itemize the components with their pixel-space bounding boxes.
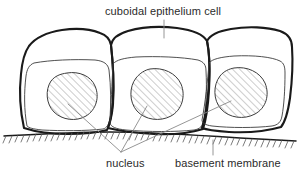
basement-membrane [3,132,296,148]
label-nucleus: nucleus [106,157,145,169]
epithelium-diagram [0,0,299,176]
label-basement-membrane: basement membrane [175,157,281,169]
cell-1-nucleus [47,73,97,120]
diagram-canvas: cuboidal epithelium cell nucleus basemen… [0,0,299,176]
epithelial-cell-1 [20,29,113,134]
epithelial-cell-3 [202,27,292,132]
leader-line-nucleus-2 [121,106,147,152]
cell-3-nucleus [215,68,267,118]
cell-2-nucleus [131,69,183,120]
label-cuboidal-epithelium-cell: cuboidal epithelium cell [105,5,221,17]
